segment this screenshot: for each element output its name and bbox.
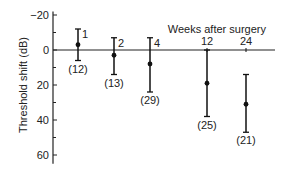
data-point-week-4: 4(29) (140, 37, 160, 106)
y-tick-label: 0 (43, 44, 49, 56)
mean-marker (76, 42, 81, 47)
y-tick-label: −20 (30, 9, 49, 21)
week-label: 1 (82, 28, 88, 40)
y-axis: −200204060 (30, 9, 57, 164)
data-point-week-24: 24(21) (236, 35, 256, 146)
y-tick-label: 40 (37, 114, 49, 126)
y-tick-label: 20 (37, 79, 49, 91)
data-point-week-12: 12(25) (197, 35, 217, 131)
mean-marker (205, 81, 210, 86)
week-label: 2 (118, 37, 124, 49)
data-points: 1(12)2(13)4(29)12(25)24(21) (68, 28, 256, 146)
sample-size-label: (29) (140, 94, 160, 106)
sample-size-label: (13) (104, 77, 124, 89)
week-label: 24 (240, 35, 252, 47)
week-label: 12 (201, 35, 213, 47)
mean-marker (244, 102, 249, 107)
sample-size-label: (21) (236, 134, 256, 146)
threshold-shift-chart: −200204060 1(12)2(13)4(29)12(25)24(21) W… (0, 0, 285, 170)
data-point-week-1: 1(12) (68, 28, 88, 75)
week-label: 4 (154, 37, 160, 49)
y-tick-label: 60 (37, 149, 49, 161)
sample-size-label: (12) (68, 63, 88, 75)
sample-size-label: (25) (197, 119, 217, 131)
chart-svg: −200204060 1(12)2(13)4(29)12(25)24(21) W… (0, 0, 285, 170)
data-point-week-2: 2(13) (104, 37, 124, 89)
x-axis-label: Weeks after surgery (168, 23, 267, 35)
mean-marker (112, 53, 117, 58)
mean-marker (148, 62, 153, 67)
y-axis-label: Threshold shift (dB) (17, 37, 29, 133)
